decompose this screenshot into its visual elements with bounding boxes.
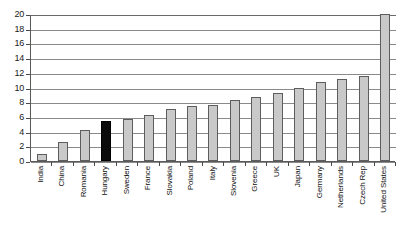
- y-tick-label: 8: [0, 98, 24, 107]
- x-label-wrap: Japan: [288, 166, 308, 230]
- bar-slot: [181, 15, 202, 161]
- bar-romania[interactable]: [80, 130, 90, 161]
- bar-japan[interactable]: [294, 88, 304, 161]
- bar-slot: [31, 15, 52, 161]
- y-tick-label: 12: [0, 69, 24, 78]
- bar-slot: [332, 15, 353, 161]
- bar-slot: [74, 15, 95, 161]
- x-tick-label: Slovakia: [166, 166, 174, 195]
- bar-greece[interactable]: [251, 97, 261, 161]
- x-tick-label: Italy: [209, 166, 217, 180]
- x-tick-label: India: [37, 166, 45, 183]
- bar-slot: [138, 15, 159, 161]
- bar-slot: [224, 15, 245, 161]
- x-tick-label: Netherlands: [337, 166, 345, 208]
- x-label-wrap: UK: [267, 166, 287, 230]
- y-tick-label: 0: [0, 157, 24, 166]
- x-label-wrap: France: [138, 166, 158, 230]
- bar-slot: [117, 15, 138, 161]
- x-tick-label: Romania: [80, 166, 88, 197]
- x-tick-mark: [395, 162, 396, 166]
- bar-slot: [160, 15, 181, 161]
- bar-slot: [203, 15, 224, 161]
- x-tick-label: United States: [380, 166, 388, 213]
- bar-poland[interactable]: [187, 106, 197, 161]
- x-tick-label: Germany: [316, 166, 324, 198]
- y-tick-label: 4: [0, 128, 24, 137]
- bar-china[interactable]: [58, 142, 68, 161]
- y-tick-label: 16: [0, 39, 24, 48]
- bar-united-states[interactable]: [380, 14, 390, 161]
- x-label-wrap: Romania: [74, 166, 94, 230]
- x-label-wrap: Netherlands: [331, 166, 351, 230]
- x-tick-label: Greece: [251, 166, 259, 192]
- bar-germany[interactable]: [316, 82, 326, 161]
- x-label-wrap: Czech Rep: [353, 166, 373, 230]
- x-tick-label: Japan: [294, 166, 302, 187]
- bar-italy[interactable]: [208, 105, 218, 161]
- bar-slot: [52, 15, 73, 161]
- y-tick-label: 2: [0, 142, 24, 151]
- x-tick-label: Slovenia: [230, 166, 238, 196]
- y-tick-label: 14: [0, 54, 24, 63]
- y-tick-mark: [26, 162, 30, 163]
- x-label-wrap: Hungary: [95, 166, 115, 230]
- bar-netherlands[interactable]: [337, 79, 347, 161]
- y-tick-label: 20: [0, 10, 24, 19]
- x-label-wrap: India: [31, 166, 51, 230]
- y-tick-label: 6: [0, 113, 24, 122]
- bar-slovenia[interactable]: [230, 100, 240, 161]
- x-label-wrap: Poland: [181, 166, 201, 230]
- x-label-wrap: Slovenia: [224, 166, 244, 230]
- x-tick-label: China: [58, 166, 66, 186]
- bar-france[interactable]: [144, 115, 154, 161]
- bar-slot: [289, 15, 310, 161]
- x-tick-label: Hungary: [101, 166, 109, 196]
- x-tick-label: Sweden: [123, 166, 131, 194]
- x-label-wrap: United States: [374, 166, 394, 230]
- bar-sweden[interactable]: [123, 119, 133, 161]
- bar-slot: [310, 15, 331, 161]
- bar-slot: [375, 15, 396, 161]
- x-tick-label: France: [144, 166, 152, 190]
- bar-slot: [353, 15, 374, 161]
- bar-chart: 20181614121086420 IndiaChinaRomaniaHunga…: [0, 0, 402, 233]
- x-label-wrap: Slovakia: [160, 166, 180, 230]
- x-label-wrap: Greece: [245, 166, 265, 230]
- bar-slovakia[interactable]: [166, 109, 176, 161]
- bar-india[interactable]: [37, 154, 47, 161]
- bar-slot: [246, 15, 267, 161]
- y-tick-label: 10: [0, 84, 24, 93]
- bar-uk[interactable]: [273, 93, 283, 161]
- y-tick-label: 18: [0, 25, 24, 34]
- x-label-wrap: Germany: [310, 166, 330, 230]
- x-tick-label: Poland: [187, 166, 195, 190]
- gridline: [31, 162, 396, 163]
- bar-slot: [95, 15, 116, 161]
- bar-czech-rep[interactable]: [359, 76, 369, 161]
- x-label-wrap: Sweden: [117, 166, 137, 230]
- bar-hungary[interactable]: [101, 121, 111, 161]
- bar-slot: [267, 15, 288, 161]
- plot-area: [30, 15, 395, 162]
- x-label-wrap: China: [52, 166, 72, 230]
- x-tick-label: Czech Rep: [359, 166, 367, 205]
- x-tick-label: UK: [273, 166, 281, 177]
- x-label-wrap: Italy: [203, 166, 223, 230]
